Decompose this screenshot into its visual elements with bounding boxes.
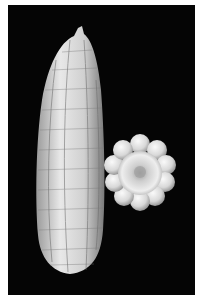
corn-ear <box>36 26 104 274</box>
corn-photo <box>0 0 200 300</box>
corn-cross-section <box>104 134 176 211</box>
